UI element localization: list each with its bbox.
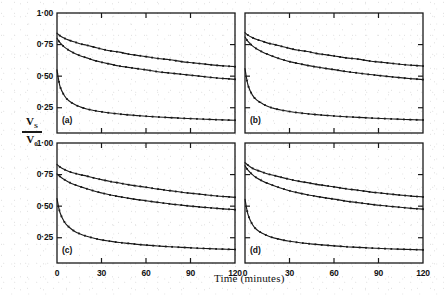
- data-point: [181, 191, 183, 193]
- data-point: [101, 111, 103, 113]
- data-point: [392, 76, 394, 78]
- data-point: [325, 68, 327, 70]
- data-point: [351, 189, 353, 191]
- data-point: [304, 50, 306, 52]
- data-point: [313, 195, 315, 197]
- data-point: [139, 199, 141, 201]
- data-point: [250, 44, 252, 46]
- data-point: [260, 179, 262, 181]
- data-point: [339, 115, 341, 117]
- data-point: [204, 207, 206, 209]
- x-tick-label: 60: [135, 268, 157, 278]
- data-point: [248, 86, 250, 88]
- data-point: [179, 73, 181, 75]
- data-point: [345, 57, 347, 59]
- data-point: [271, 184, 273, 186]
- data-point: [270, 107, 272, 109]
- data-point: [384, 248, 386, 250]
- data-point: [403, 119, 405, 121]
- data-point: [247, 164, 249, 166]
- data-point: [158, 116, 160, 118]
- data-point: [349, 201, 351, 203]
- data-point: [264, 104, 266, 106]
- data-point: [93, 46, 95, 48]
- data-point: [102, 239, 104, 241]
- panel-label-b: (b): [250, 115, 261, 125]
- data-point: [378, 247, 380, 249]
- data-point: [180, 204, 182, 206]
- data-point: [199, 193, 201, 195]
- data-point: [115, 195, 117, 197]
- data-point: [409, 119, 411, 121]
- data-point: [93, 177, 95, 179]
- data-point: [64, 169, 66, 171]
- data-point: [325, 197, 327, 199]
- data-point: [228, 208, 230, 210]
- data-point: [321, 184, 323, 186]
- data-point: [157, 201, 159, 203]
- data-point: [116, 51, 118, 53]
- data-point: [352, 246, 354, 248]
- data-point: [63, 221, 65, 223]
- data-point: [258, 39, 260, 41]
- data-point: [392, 194, 394, 196]
- data-point: [269, 174, 271, 176]
- data-point: [309, 182, 311, 184]
- data-point: [95, 110, 97, 112]
- data-point: [110, 181, 112, 183]
- data-point: [58, 41, 60, 43]
- data-point: [139, 55, 141, 57]
- data-point: [416, 196, 418, 198]
- data-point: [367, 203, 369, 205]
- data-point: [416, 65, 418, 67]
- x-tick-label: 30: [279, 268, 301, 278]
- data-point: [175, 60, 177, 62]
- data-point: [392, 206, 394, 208]
- data-point: [422, 196, 424, 198]
- data-point: [369, 191, 371, 193]
- data-point: [222, 78, 224, 80]
- data-point: [149, 70, 151, 72]
- data-point: [308, 243, 310, 245]
- data-point: [210, 64, 212, 66]
- curve-lower-curve: [57, 199, 235, 250]
- data-point: [331, 198, 333, 200]
- data-point: [127, 243, 129, 245]
- data-point: [315, 243, 317, 245]
- data-point: [204, 76, 206, 78]
- data-point: [75, 173, 77, 175]
- data-point: [92, 190, 94, 192]
- data-point: [248, 216, 250, 218]
- data-point: [215, 119, 217, 121]
- data-point: [155, 71, 157, 73]
- data-point: [78, 233, 80, 235]
- data-point: [380, 75, 382, 77]
- data-point: [196, 118, 198, 120]
- data-point: [67, 49, 69, 51]
- data-point: [251, 222, 253, 224]
- data-point: [327, 185, 329, 187]
- data-point: [84, 56, 86, 58]
- data-point: [307, 194, 309, 196]
- data-point: [398, 77, 400, 79]
- data-point: [120, 113, 122, 115]
- data-point: [234, 209, 236, 211]
- data-point: [163, 189, 165, 191]
- curve-upper-curve: [57, 164, 235, 197]
- data-point: [327, 54, 329, 56]
- data-point: [352, 116, 354, 118]
- data-point: [128, 184, 130, 186]
- data-point: [252, 167, 254, 169]
- data-point: [292, 48, 294, 50]
- data-point: [184, 247, 186, 249]
- data-point: [77, 105, 79, 107]
- panel-a: [57, 13, 236, 133]
- data-point: [145, 200, 147, 202]
- data-point: [398, 194, 400, 196]
- y-tick-label: 0·25: [17, 232, 53, 242]
- data-point: [59, 166, 61, 168]
- data-point: [295, 191, 297, 193]
- data-point: [357, 58, 359, 60]
- data-point: [304, 181, 306, 183]
- data-point: [373, 74, 375, 76]
